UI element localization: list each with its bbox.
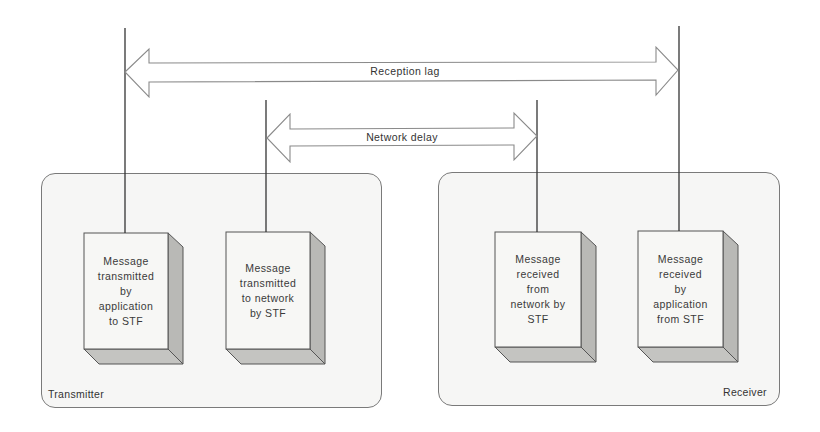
reception-lag-label: Reception lag xyxy=(350,65,460,77)
box-label-tx-app: Message transmitted by application to ST… xyxy=(84,233,168,349)
receiver-label: Receiver xyxy=(723,386,767,398)
transmitter-label: Transmitter xyxy=(48,388,104,400)
box-label-rx-app: Message received by application from STF xyxy=(638,231,723,347)
box-label-rx-net: Message received from network by STF xyxy=(495,232,581,347)
network-delay-label: Network delay xyxy=(347,131,457,143)
box-label-tx-net: Message transmitted to network by STF xyxy=(226,232,310,349)
diagram-canvas: Reception lag Network delay Message tran… xyxy=(0,0,820,432)
